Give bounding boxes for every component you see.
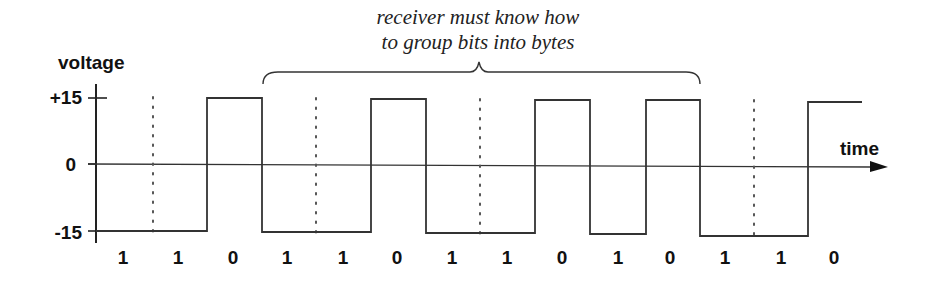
- arrow-right-icon: [870, 161, 888, 172]
- bit-label: 1: [338, 247, 349, 268]
- y-tick-minus15: -15: [55, 222, 83, 243]
- y-tick-0: 0: [65, 154, 76, 175]
- annotation-line-1: receiver must know how: [377, 5, 580, 29]
- y-axis-label: voltage: [58, 52, 125, 73]
- x-axis-label: time: [840, 138, 879, 159]
- bit-label: 1: [776, 247, 787, 268]
- bit-label: 0: [557, 247, 568, 268]
- bit-label: 0: [829, 247, 840, 268]
- y-tick-plus15: +15: [50, 87, 83, 108]
- bit-label: 1: [282, 247, 293, 268]
- bit-label: 1: [502, 247, 513, 268]
- bit-label: 0: [665, 247, 676, 268]
- bit-label: 0: [228, 247, 239, 268]
- bit-label: 1: [720, 247, 731, 268]
- waveform-diagram: receiver must know how to group bits int…: [0, 0, 925, 289]
- waveform-svg: receiver must know how to group bits int…: [0, 0, 925, 289]
- bit-label: 1: [447, 247, 458, 268]
- annotation-line-2: to group bits into bytes: [382, 30, 575, 54]
- bit-label: 1: [173, 247, 184, 268]
- bit-label: 1: [118, 247, 129, 268]
- bit-labels: 1 1 0 1 1 0 1 1 0 1 0 1 1 0: [118, 247, 840, 268]
- bit-label: 0: [392, 247, 403, 268]
- bit-label: 1: [613, 247, 624, 268]
- brace-icon: [263, 62, 700, 84]
